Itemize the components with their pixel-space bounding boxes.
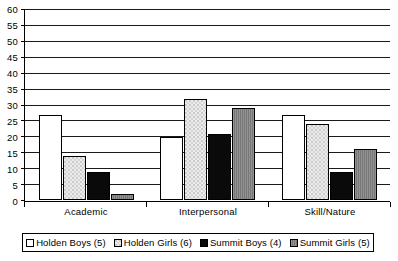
y-tick-mark (21, 120, 25, 121)
bar[interactable] (111, 194, 134, 200)
y-tick-label: 10 (7, 165, 18, 175)
x-category-label: Skill/Nature (269, 207, 391, 217)
y-tick-mark (21, 168, 25, 169)
bar-slot (330, 10, 353, 200)
y-tick-mark (21, 152, 25, 153)
legend-item[interactable]: Holden Boys (5) (26, 238, 106, 248)
bar-slot (111, 10, 134, 200)
y-tick-label: 15 (7, 149, 18, 159)
bar-slot (87, 10, 110, 200)
bar-slot (208, 10, 231, 200)
y-tick-label: 40 (7, 69, 18, 79)
y-tick-mark (21, 200, 25, 201)
x-axis-category-labels: AcademicInterpersonalSkill/Nature (25, 207, 391, 217)
bar-chart: 051015202530354045505560 AcademicInterpe… (0, 0, 398, 261)
y-tick-mark (21, 41, 25, 42)
bar-slot (160, 10, 183, 200)
plot-area (24, 10, 390, 202)
legend-item[interactable]: Summit Boys (4) (200, 238, 282, 248)
y-tick-label: 60 (7, 5, 18, 15)
legend-label: Summit Boys (4) (210, 238, 282, 248)
y-tick-label: 0 (13, 197, 18, 207)
bar-slot (63, 10, 86, 200)
y-tick-mark (21, 9, 25, 10)
x-category-label: Interpersonal (147, 207, 269, 217)
y-tick-label: 5 (13, 181, 18, 191)
legend-swatch-icon (290, 239, 298, 247)
legend-item[interactable]: Holden Girls (6) (114, 238, 192, 248)
y-tick-label: 30 (7, 101, 18, 111)
legend-label: Summit Girls (5) (300, 238, 370, 248)
y-tick-mark (21, 105, 25, 106)
y-tick-label: 20 (7, 133, 18, 143)
y-tick-label: 45 (7, 53, 18, 63)
y-tick-label: 25 (7, 117, 18, 127)
bar-groups (26, 10, 390, 200)
legend-label: Holden Boys (5) (36, 238, 106, 248)
y-tick-label: 35 (7, 85, 18, 95)
bar-slot (354, 10, 377, 200)
legend-label: Holden Girls (6) (124, 238, 192, 248)
legend-swatch-icon (26, 239, 34, 247)
x-category-label: Academic (25, 207, 147, 217)
bar-group (269, 10, 390, 200)
y-tick-mark (21, 89, 25, 90)
y-tick-label: 50 (7, 37, 18, 47)
y-tick-mark (21, 73, 25, 74)
bar[interactable] (63, 156, 86, 200)
bar[interactable] (282, 115, 305, 201)
chart-legend: Holden Boys (5)Holden Girls (6)Summit Bo… (22, 233, 374, 252)
bar-slot (184, 10, 207, 200)
bar[interactable] (354, 149, 377, 200)
bar-slot (282, 10, 305, 200)
y-tick-mark (21, 57, 25, 58)
bar[interactable] (330, 172, 353, 201)
legend-item[interactable]: Summit Girls (5) (290, 238, 370, 248)
bar[interactable] (208, 134, 231, 201)
bar-slot (306, 10, 329, 200)
y-tick-mark (21, 25, 25, 26)
legend-swatch-icon (114, 239, 122, 247)
y-tick-mark (21, 184, 25, 185)
bar[interactable] (306, 124, 329, 200)
bar-slot (39, 10, 62, 200)
bar[interactable] (184, 99, 207, 200)
bar[interactable] (87, 172, 110, 201)
y-tick-label: 55 (7, 21, 18, 31)
bar[interactable] (160, 137, 183, 200)
bar-slot (232, 10, 255, 200)
bar-group (147, 10, 268, 200)
bar[interactable] (39, 115, 62, 201)
bar[interactable] (232, 108, 255, 200)
bar-group (26, 10, 147, 200)
legend-swatch-icon (200, 239, 208, 247)
y-tick-mark (21, 136, 25, 137)
plot-wrapper: 051015202530354045505560 (24, 10, 390, 202)
